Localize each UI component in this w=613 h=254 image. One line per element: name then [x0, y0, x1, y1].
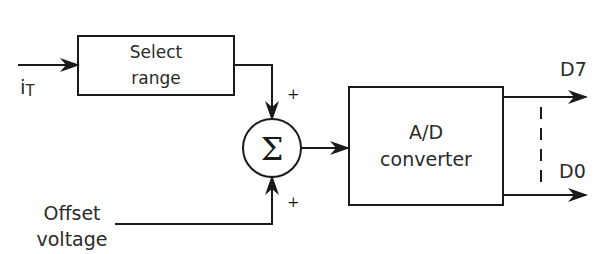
adc-label-line2: converter: [380, 148, 472, 170]
adc-block: A/D converter: [349, 87, 503, 205]
select-range-label-line1: Select: [130, 42, 183, 62]
input-current-label: iT: [20, 75, 36, 100]
summing-junction: Σ: [243, 119, 301, 177]
sigma-symbol: Σ: [261, 130, 284, 168]
summer-bottom-sign: +: [287, 193, 300, 211]
offset-to-summer-wire: [115, 177, 272, 224]
output-d7-label: D7: [560, 58, 587, 80]
output-d0-label: D0: [559, 160, 586, 182]
offset-label-line2: voltage: [37, 228, 108, 250]
summer-top-sign: +: [287, 85, 300, 103]
range-to-summer-wire: [234, 65, 272, 119]
select-range-label-line2: range: [131, 68, 180, 88]
offset-label-line1: Offset: [43, 202, 100, 224]
adc-label-line1: A/D: [409, 121, 443, 143]
select-range-block: Select range: [78, 36, 234, 95]
signal-chain-diagram: iT Select range + Σ + Offset voltage A/D…: [0, 0, 613, 254]
